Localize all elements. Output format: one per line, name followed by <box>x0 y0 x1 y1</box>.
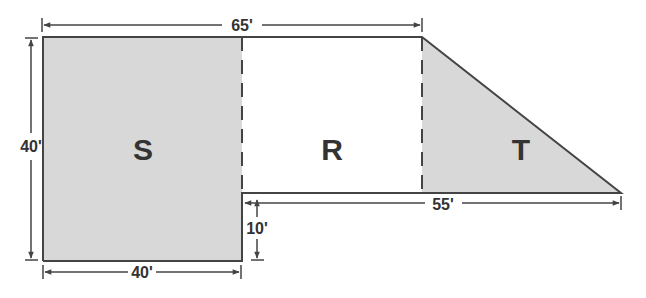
region-r: R <box>242 37 422 193</box>
region-t-label: T <box>512 133 530 166</box>
dimension-step-label: 10' <box>246 220 268 237</box>
dimension-top-label: 65' <box>231 17 253 34</box>
dimension-right-label: 55' <box>432 196 454 213</box>
region-r-label: R <box>321 133 343 166</box>
dimension-left-label: 40' <box>20 138 42 155</box>
floor-plan-diagram: S R T 65' 40' 40' <box>0 0 646 298</box>
dimension-bottom-label: 40' <box>131 264 153 281</box>
region-s: S <box>43 37 242 261</box>
region-s-label: S <box>133 133 153 166</box>
